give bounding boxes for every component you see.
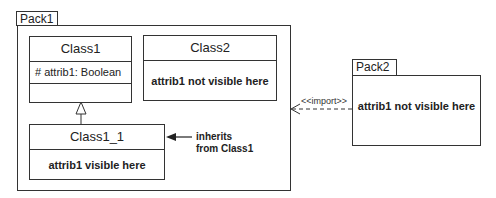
inherit-note-line2: from Class1 xyxy=(196,143,253,155)
class1-1-name: Class1_1 xyxy=(30,125,164,150)
pack2-package: attrib1 not visible here xyxy=(352,75,481,146)
class1-1-box: Class1_1 attrib1 visible here xyxy=(29,124,165,180)
import-label: <<import>> xyxy=(301,96,347,106)
inherit-note: inherits from Class1 xyxy=(196,131,253,155)
class1-1-body: attrib1 visible here xyxy=(30,150,164,180)
pack2-tab: Pack2 xyxy=(352,59,397,76)
pack2-name: Pack2 xyxy=(356,60,389,74)
class1-box: Class1 # attrib1: Boolean xyxy=(29,36,132,103)
pack2-body: attrib1 not visible here xyxy=(353,76,480,112)
class2-name: Class2 xyxy=(144,36,276,61)
inherit-note-line1: inherits xyxy=(196,131,253,143)
class1-name: Class1 xyxy=(30,37,131,62)
pack1-name: Pack1 xyxy=(20,12,53,26)
class2-body: attrib1 not visible here xyxy=(144,61,276,101)
pack1-tab: Pack1 xyxy=(16,11,58,26)
class1-attribute: # attrib1: Boolean xyxy=(30,62,131,84)
class2-box: Class2 attrib1 not visible here xyxy=(143,35,277,101)
